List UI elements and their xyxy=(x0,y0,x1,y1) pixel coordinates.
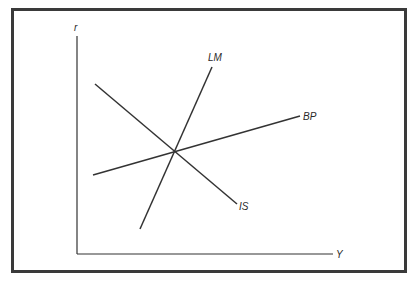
is-label: IS xyxy=(239,201,249,212)
bp-curve xyxy=(93,116,300,175)
y-axis-label: r xyxy=(74,22,78,33)
bp-label: BP xyxy=(303,111,317,122)
is-lm-bp-diagram: r Y LM BP IS xyxy=(0,0,414,285)
is-curve xyxy=(95,84,237,204)
lm-curve xyxy=(140,67,212,229)
lm-label: LM xyxy=(208,52,223,63)
x-axis-label: Y xyxy=(336,249,344,260)
